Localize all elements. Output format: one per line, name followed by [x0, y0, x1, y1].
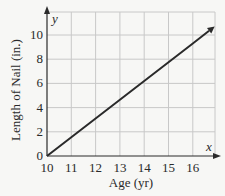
y-tick-label: 0: [37, 148, 44, 163]
x-axis-name: x: [205, 139, 212, 154]
x-axis-label: Age (yr): [109, 175, 153, 190]
x-tick-label: 16: [186, 160, 200, 175]
y-tick-label: 4: [37, 100, 44, 115]
x-tick-label: 14: [138, 160, 152, 175]
y-tick-label: 10: [30, 27, 43, 42]
x-tick-label: 15: [162, 160, 175, 175]
y-axis-label: Length of Nail (in.): [8, 39, 23, 141]
y-tick-label: 8: [37, 51, 44, 66]
grid-lines: [47, 12, 215, 156]
axes: [44, 6, 221, 159]
x-tick-label: 11: [65, 160, 78, 175]
y-axis-name: y: [50, 11, 58, 26]
data-line: [47, 27, 215, 156]
y-tick-label: 6: [37, 75, 44, 90]
line-chart: 10111213141516 0246810 x y Age (yr) Leng…: [0, 0, 225, 196]
x-tick-label: 13: [113, 160, 126, 175]
x-tick-label: 12: [89, 160, 102, 175]
y-tick-labels: 0246810: [30, 27, 44, 163]
y-tick-label: 2: [37, 124, 44, 139]
x-tick-labels: 10111213141516: [41, 160, 200, 175]
